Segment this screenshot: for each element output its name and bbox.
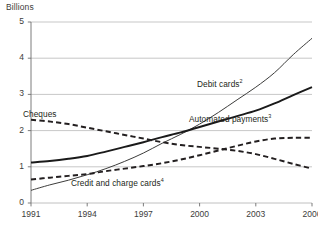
x-tick-label: 2006: [292, 209, 318, 219]
series-label-debit-cards: Debit cards2: [197, 79, 243, 89]
x-tick-label: 1997: [123, 209, 163, 219]
y-tick-label: 0: [10, 197, 24, 207]
y-tick-label: 3: [10, 88, 24, 98]
series-label-text: Automated payments: [189, 114, 268, 124]
series-label-text: Credit and charge cards: [71, 178, 161, 188]
y-tick-label: 1: [10, 161, 24, 171]
x-tick-label: 1994: [67, 209, 107, 219]
series-line-cheques: [31, 120, 312, 169]
line-chart: Billions 012345 199119941997200020032006…: [0, 0, 318, 239]
series-label-footnote: 2: [240, 78, 243, 84]
series-label-text: Cheques: [23, 109, 57, 119]
y-tick-label: 2: [10, 125, 24, 135]
y-tick-label: 4: [10, 52, 24, 62]
series-label-footnote: 4: [161, 177, 164, 183]
series-label-footnote: 3: [268, 113, 271, 119]
series-label-credit-and-charge-cards: Credit and charge cards4: [71, 178, 164, 188]
series-label-cheques: Cheques: [23, 109, 57, 119]
series-label-text: Debit cards: [197, 79, 240, 89]
x-tick-label: 2003: [236, 209, 276, 219]
x-tick-label: 1991: [11, 209, 51, 219]
x-tick-label: 2000: [180, 209, 220, 219]
series-label-automated-payments: Automated payments3: [189, 114, 271, 124]
y-tick-label: 5: [10, 16, 24, 26]
